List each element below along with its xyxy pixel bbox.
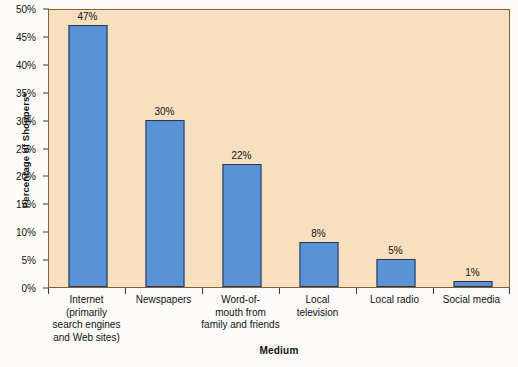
x-axis-title: Medium [48, 345, 510, 356]
plot-area: 47%30%22%8%5%1% [48, 9, 510, 288]
x-category-label-line: mouth from [196, 307, 285, 320]
y-tick-label: 20% [0, 171, 36, 182]
bar-group: 8% [280, 10, 357, 287]
x-category-label-line: Local radio [350, 294, 439, 307]
bar-value-label: 5% [388, 245, 402, 256]
y-tick-label: 30% [0, 115, 36, 126]
bar-chart: Percentage of Shoppers* 0%5%10%15%20%25%… [0, 0, 518, 367]
y-tick-label: 45% [0, 31, 36, 42]
x-category-label-line: Social media [427, 294, 516, 307]
bar[interactable] [453, 281, 492, 287]
bar-group: 1% [434, 10, 511, 287]
y-tick-label: 40% [0, 59, 36, 70]
x-category-label-line: television [273, 307, 362, 320]
bar-group: 47% [49, 10, 126, 287]
y-axis-tick-labels: 0%5%10%15%20%25%30%35%40%45%50% [0, 0, 44, 300]
bars-layer: 47%30%22%8%5%1% [49, 10, 509, 287]
x-category-label: Internet(primarilysearch enginesand Web … [42, 294, 131, 344]
y-tick-label: 5% [0, 255, 36, 266]
x-category-label-line: Local [273, 294, 362, 307]
y-tick-label: 15% [0, 199, 36, 210]
x-category-label-line: family and friends [196, 319, 285, 332]
y-tick-label: 25% [0, 143, 36, 154]
y-tick-label: 0% [0, 283, 36, 294]
x-category-label: Newspapers [119, 294, 208, 307]
bar[interactable] [222, 164, 261, 287]
x-category-label-line: Word-of- [196, 294, 285, 307]
x-category-label-line: search engines [42, 319, 131, 332]
bar-value-label: 1% [465, 267, 479, 278]
bar-value-label: 30% [154, 106, 174, 117]
y-tick-label: 50% [0, 4, 36, 15]
x-category-label: Social media [427, 294, 516, 307]
y-tick-label: 35% [0, 87, 36, 98]
bar-value-label: 47% [77, 11, 97, 22]
x-category-label-line: (primarily [42, 307, 131, 320]
x-category-label-line: Newspapers [119, 294, 208, 307]
bar-value-label: 22% [231, 150, 251, 161]
y-tick-label: 10% [0, 227, 36, 238]
bar[interactable] [68, 25, 107, 287]
bar-group: 22% [203, 10, 280, 287]
bar-group: 5% [357, 10, 434, 287]
x-category-label: Localtelevision [273, 294, 362, 319]
bar-group: 30% [126, 10, 203, 287]
x-category-label: Word-of-mouth fromfamily and friends [196, 294, 285, 332]
x-category-label-line: Internet [42, 294, 131, 307]
bar[interactable] [299, 242, 338, 287]
x-category-label: Local radio [350, 294, 439, 307]
bar-value-label: 8% [311, 228, 325, 239]
x-category-label-line: and Web sites) [42, 332, 131, 345]
bar[interactable] [145, 120, 184, 287]
bar[interactable] [376, 259, 415, 287]
